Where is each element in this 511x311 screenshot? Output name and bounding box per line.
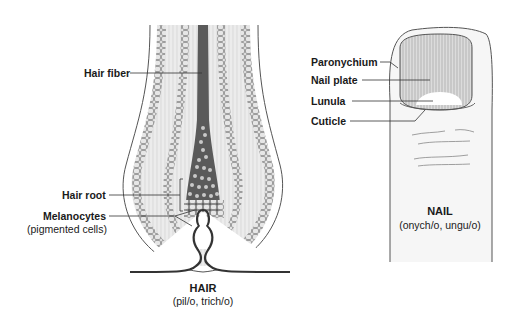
label-hair-fiber: Hair fiber [84, 67, 130, 79]
label-melanocytes-note: (pigmented cells) [27, 223, 107, 235]
label-nail-plate: Nail plate [311, 74, 358, 86]
label-lunula: Lunula [311, 95, 345, 107]
label-cuticle: Cuticle [311, 115, 346, 127]
nail-subtitle: (onych/o, ungu/o) [385, 219, 495, 231]
hair-follicle-illustration [0, 0, 511, 311]
label-paronychium: Paronychium [311, 56, 378, 68]
hair-title: HAIR [163, 282, 243, 295]
label-melanocytes: Melanocytes [43, 210, 106, 222]
label-hair-root: Hair root [62, 189, 106, 201]
hair-subtitle: (pil/o, trich/o) [153, 295, 253, 307]
nail-title: NAIL [400, 205, 480, 218]
